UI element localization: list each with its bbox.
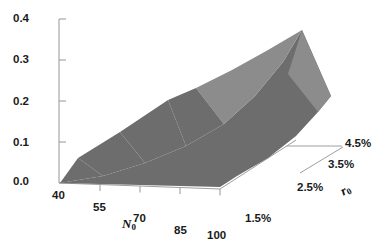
y-tick-label-0-0: 0.0 [13, 176, 29, 188]
depth-tick-label-4-5: 4.5% [345, 138, 371, 150]
y-tick-label-0-2: 0.2 [13, 96, 29, 108]
x-tick-label-55: 55 [93, 202, 106, 214]
depth-tick-label-1-5: 1.5% [245, 213, 271, 225]
x-axis-title: N0 [122, 217, 136, 230]
depth-tick-label-3-5: 3.5% [328, 159, 354, 171]
y-tick-label-0-1: 0.1 [13, 137, 29, 149]
x-tick-label-100: 100 [207, 230, 226, 242]
surface-plot-canvas [0, 0, 391, 247]
x-axis-title-subscript: 0 [131, 222, 136, 232]
x-tick-label-85: 85 [174, 225, 187, 237]
x-axis-title-text: N [122, 216, 131, 231]
y-tick-label-0-3: 0.3 [13, 54, 29, 66]
y-tick-label-0-4: 0.4 [13, 13, 29, 25]
y-axis [59, 19, 66, 183]
x-tick-label-40: 40 [52, 190, 65, 202]
surface-plot-figure: 0.4 0.3 0.2 0.1 0.0 40 55 70 85 100 1.5%… [0, 0, 391, 247]
depth-tick-label-2-5: 2.5% [297, 182, 323, 194]
